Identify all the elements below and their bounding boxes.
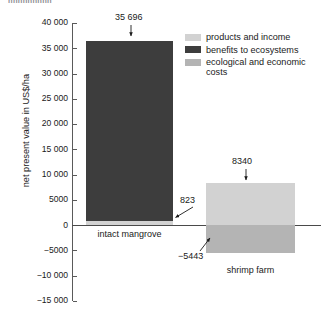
data-value-label: 8340	[232, 157, 252, 166]
y-axis-tick	[73, 301, 77, 302]
legend-swatch-icon	[185, 46, 201, 53]
legend-label: benefits to ecosystems	[206, 45, 299, 55]
y-axis-tick-label: 0	[6, 221, 68, 230]
category-label: intact mangrove	[86, 230, 173, 239]
y-axis-tick	[73, 149, 77, 150]
bar-segment	[206, 225, 295, 253]
data-value-label: 35 696	[115, 13, 143, 22]
y-axis-tick	[73, 23, 77, 24]
bar-chart: nnnnnnnnn 40 00035 00030 00025 00020 000…	[0, 0, 327, 313]
y-axis-tick-label: −10 000	[6, 271, 68, 280]
y-axis-tick-label: 35 000	[6, 44, 68, 53]
category-label: shrimp farm	[206, 266, 295, 275]
legend: products and incomebenefits to ecosystem…	[185, 32, 327, 80]
legend-swatch-icon	[185, 59, 201, 66]
y-axis-tick	[73, 48, 77, 49]
y-axis-tick-label: 10 000	[6, 170, 68, 179]
legend-item: benefits to ecosystems	[185, 45, 327, 55]
legend-item: products and income	[185, 32, 327, 42]
bar-segment	[206, 183, 295, 225]
y-axis-tick	[73, 250, 77, 251]
y-axis-tick	[73, 175, 77, 176]
y-axis-tick	[73, 276, 77, 277]
bar-segment	[86, 41, 173, 221]
y-axis-tick-label: 30 000	[6, 69, 68, 78]
y-axis-tick-label: 25 000	[6, 94, 68, 103]
y-axis-tick-label: −15 000	[6, 296, 68, 305]
legend-swatch-icon	[185, 34, 201, 41]
y-axis-tick-label: 15 000	[6, 145, 68, 154]
y-axis-tick-label: 40 000	[6, 18, 68, 27]
y-axis-tick	[73, 200, 77, 201]
y-axis-tick	[73, 99, 77, 100]
data-value-label: 823	[180, 196, 195, 205]
y-axis-tick-label: 5000	[6, 195, 68, 204]
legend-label: ecological and economic costs	[206, 57, 322, 77]
bar-segment	[86, 221, 173, 225]
y-axis-tick	[73, 124, 77, 125]
data-value-label: −5443	[178, 252, 203, 261]
legend-item: ecological and economic costs	[185, 57, 327, 77]
y-axis-tick-label: 20 000	[6, 119, 68, 128]
y-axis-title: net present value in US$/ha	[22, 36, 31, 226]
truncated-caption: nnnnnnnnn	[8, 0, 128, 4]
legend-label: products and income	[206, 32, 290, 42]
y-axis-line	[72, 23, 73, 301]
y-axis-tick	[73, 74, 77, 75]
y-axis-tick-label: −5000	[6, 246, 68, 255]
